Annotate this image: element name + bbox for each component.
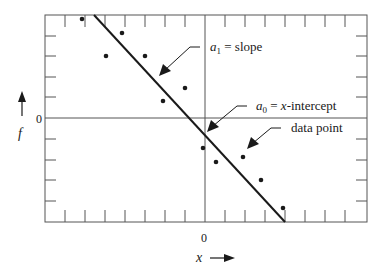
intercept-label: a0 = x-intercept — [256, 98, 337, 115]
y-axis-arrow-icon — [18, 91, 26, 116]
y-axis-label: f — [18, 126, 24, 141]
regression-diagram: a1 = slope a0 = x-intercept data point 0… — [0, 0, 385, 274]
y-zero-label: 0 — [36, 112, 42, 126]
data-point-label: data point — [291, 120, 343, 135]
intercept-arrow — [207, 106, 247, 132]
x-axis-label: x — [195, 250, 203, 265]
slope-label: a1 = slope — [210, 39, 263, 56]
data-point-arrow — [247, 128, 281, 149]
slope-arrow — [159, 47, 200, 76]
x-axis-arrow-icon — [210, 254, 235, 262]
x-zero-label: 0 — [201, 231, 207, 245]
